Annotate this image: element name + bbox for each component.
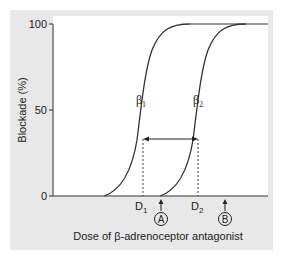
arrow-b-icon [223, 199, 228, 204]
label-d1: D1 [135, 200, 148, 215]
y-tick-label-50: 50 [35, 104, 47, 116]
label-d2: D2 [191, 200, 204, 215]
y-axis-label: Blockade (%) [16, 77, 28, 142]
plot-area [53, 16, 268, 196]
y-tick-label-0: 0 [41, 190, 47, 202]
y-tick-label-100: 100 [29, 18, 47, 30]
x-axis-label: Dose of β-adrenoceptor antagonist [73, 230, 243, 242]
arrow-a-icon [159, 199, 164, 204]
dose-response-chart: 100 50 0 Blockade (%) β1 β2 D1 D2 A B Do… [0, 0, 283, 255]
label-a: A [158, 214, 165, 225]
label-b: B [222, 214, 229, 225]
